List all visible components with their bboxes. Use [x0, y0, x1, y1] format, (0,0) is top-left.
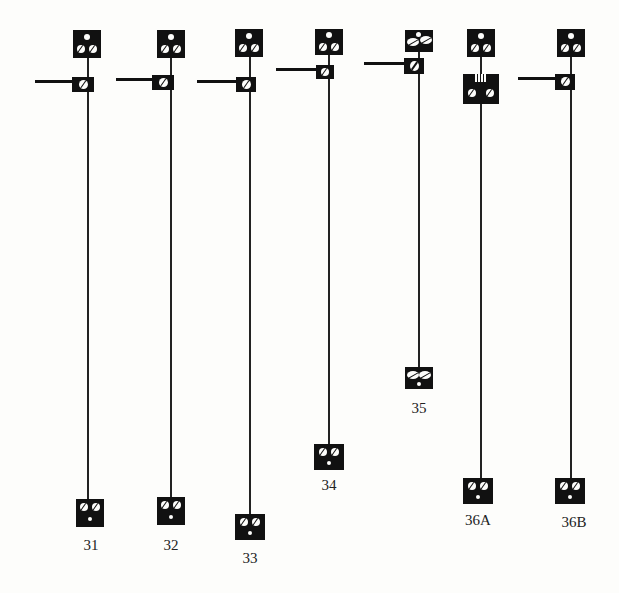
screw-icon: [572, 482, 580, 490]
bottom-block: [463, 478, 493, 504]
bottom-block: [76, 499, 104, 527]
screw-icon: [321, 68, 329, 76]
dot-icon: [84, 34, 90, 40]
screw-icon: [252, 518, 260, 526]
bottom-block: [235, 514, 265, 540]
bottom-block: [405, 367, 433, 389]
screw-icon: [480, 482, 488, 490]
figure-label: 32: [151, 537, 191, 554]
screw-icon: [331, 43, 339, 51]
lever-block: [72, 77, 94, 92]
screw-icon: [159, 78, 168, 87]
leaf-contact-icon: [407, 38, 419, 46]
screw-icon: [80, 503, 88, 511]
leaf-contact-icon: [419, 371, 431, 379]
figure-label: 36B: [554, 514, 594, 531]
connecting-wire: [480, 57, 482, 479]
screw-icon: [242, 80, 251, 89]
connecting-wire: [418, 52, 420, 370]
screw-icon: [173, 501, 181, 509]
dot-icon: [326, 32, 332, 38]
screw-icon: [173, 45, 181, 53]
screw-icon: [319, 43, 327, 51]
lever-arm: [197, 80, 237, 83]
lever-block: [316, 65, 334, 79]
lever-arm: [518, 77, 558, 80]
dot-icon: [327, 461, 331, 465]
screw-icon: [560, 482, 568, 490]
dot-icon: [417, 382, 421, 386]
leaf-contact-icon: [420, 36, 432, 44]
dot-icon: [168, 34, 174, 40]
bottom-block: [555, 478, 585, 504]
dot-icon: [246, 33, 252, 39]
screw-icon: [251, 44, 259, 52]
screw-icon: [161, 501, 169, 509]
lever-arm: [116, 78, 156, 81]
screw-icon: [161, 45, 169, 53]
screw-icon: [92, 503, 100, 511]
figure-label: 36A: [458, 512, 498, 529]
dot-icon: [476, 495, 480, 499]
figure-label: 34: [309, 477, 349, 494]
top-block: [73, 30, 101, 58]
top-block: [157, 30, 185, 58]
figure-label: 35: [399, 400, 439, 417]
screw-icon: [79, 80, 88, 89]
screw-icon: [240, 518, 248, 526]
lever-arm: [364, 62, 408, 65]
lever-arm: [35, 80, 77, 83]
connecting-wire: [87, 58, 89, 500]
dot-icon: [416, 32, 421, 37]
dot-icon: [478, 33, 484, 39]
screw-icon: [331, 448, 339, 456]
dot-icon: [88, 517, 92, 521]
top-block: [315, 29, 343, 55]
bottom-block: [314, 444, 344, 470]
lever-block: [463, 74, 499, 104]
screw-icon: [319, 448, 327, 456]
connecting-wire: [570, 57, 572, 479]
dot-icon: [568, 495, 572, 499]
screw-icon: [77, 45, 85, 53]
screw-icon: [468, 89, 476, 97]
screw-icon: [483, 44, 491, 52]
lever-arm: [276, 68, 318, 71]
screw-icon: [468, 482, 476, 490]
leaf-contact-icon: [407, 371, 419, 379]
lever-block: [236, 77, 256, 92]
screw-icon: [410, 61, 419, 71]
connecting-wire: [170, 58, 172, 498]
dot-icon: [248, 531, 252, 535]
screw-icon: [471, 44, 479, 52]
screw-icon: [486, 89, 494, 97]
screw-icon: [561, 77, 570, 86]
grille-icon: [475, 74, 487, 82]
top-block: [467, 29, 495, 57]
screw-icon: [561, 44, 569, 52]
dot-icon: [568, 33, 574, 39]
top-block: [557, 29, 585, 57]
top-block: [405, 30, 433, 52]
connecting-wire: [328, 55, 330, 445]
dot-icon: [169, 515, 173, 519]
connecting-wire: [249, 57, 251, 515]
figure-label: 31: [71, 537, 111, 554]
screw-icon: [573, 44, 581, 52]
lever-block: [404, 58, 424, 74]
screw-icon: [239, 44, 247, 52]
top-block: [235, 29, 263, 57]
bottom-block: [157, 497, 185, 525]
figure-label: 33: [230, 550, 270, 567]
lever-block: [152, 75, 174, 90]
screw-icon: [89, 45, 97, 53]
lever-block: [555, 74, 575, 90]
